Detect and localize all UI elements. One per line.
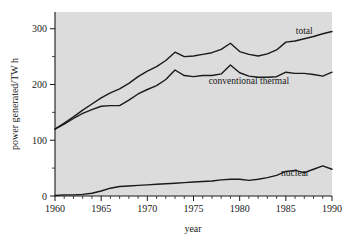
x-tick-label: 1980 bbox=[230, 203, 250, 214]
x-tick-label: 1970 bbox=[137, 203, 157, 214]
y-axis-title: power generated/TW h bbox=[9, 58, 20, 150]
y-tick-label-group: 0100200300 bbox=[32, 23, 47, 201]
x-tick-label: 1985 bbox=[276, 203, 296, 214]
series-label-conventional-thermal: conventional thermal bbox=[209, 76, 290, 86]
series-label-nuclear: nuclear bbox=[281, 168, 310, 178]
y-tick-label: 0 bbox=[42, 191, 47, 202]
x-axis-title: year bbox=[184, 223, 202, 234]
x-tick-label: 1960 bbox=[45, 203, 65, 214]
line-chart: 0100200300 1960196519701975198019851990 … bbox=[0, 0, 349, 245]
chart-figure: 0100200300 1960196519701975198019851990 … bbox=[0, 0, 349, 245]
y-axis-ticks bbox=[50, 29, 55, 196]
x-tick-label-group: 1960196519701975198019851990 bbox=[45, 203, 342, 214]
y-tick-label: 100 bbox=[32, 135, 47, 146]
series-label-total: total bbox=[296, 26, 313, 36]
x-tick-label: 1990 bbox=[322, 203, 342, 214]
x-tick-label: 1965 bbox=[91, 203, 111, 214]
y-tick-label: 200 bbox=[32, 79, 47, 90]
y-tick-label: 300 bbox=[32, 23, 47, 34]
x-axis-ticks bbox=[55, 196, 332, 201]
x-tick-label: 1975 bbox=[184, 203, 204, 214]
